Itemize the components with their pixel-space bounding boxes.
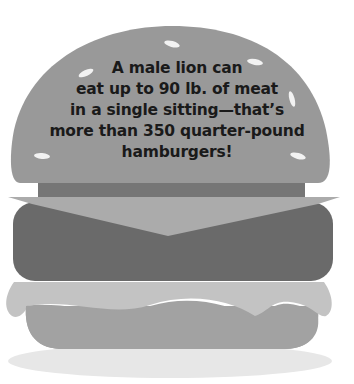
fact-line: more than 350 quarter-pound bbox=[40, 121, 314, 142]
lion-fact-text: A male lion can eat up to 90 lb. of meat… bbox=[40, 58, 314, 163]
plate-shadow bbox=[8, 344, 332, 378]
bottom-bun-top-edge bbox=[26, 301, 319, 349]
fact-line: in a single sitting—that’s bbox=[40, 100, 314, 121]
top-strip bbox=[38, 181, 305, 198]
fact-line: hamburgers! bbox=[40, 142, 314, 163]
fact-line: A male lion can bbox=[40, 58, 314, 79]
fact-line: eat up to 90 lb. of meat bbox=[40, 79, 314, 100]
